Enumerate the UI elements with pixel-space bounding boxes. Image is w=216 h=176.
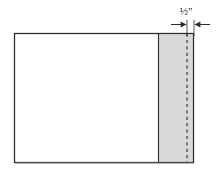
figure-container: ½" xyxy=(0,0,216,176)
dimension-label: ½" xyxy=(180,5,193,17)
technical-drawing: ½" xyxy=(0,0,216,176)
shaded-band xyxy=(159,34,195,163)
